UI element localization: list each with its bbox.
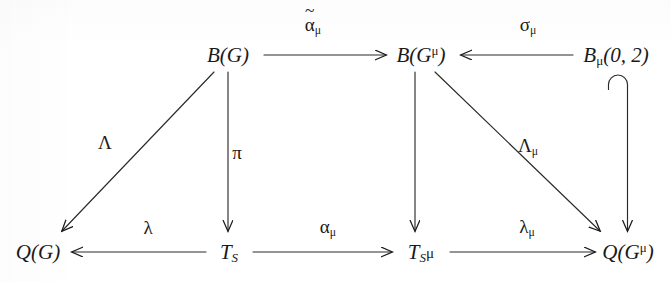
edge-label-pi: π π [232,143,242,162]
node-b-g-mu: B(Gμ) B(Gμ) [397,45,446,66]
edge-label-lambda-mu: λμ λμ [519,217,535,236]
arrow-big-lambda [62,72,214,231]
arrow-hook-inclusion [609,75,628,231]
edge-label-big-lambda: Λ Λ [98,133,112,152]
node-t-s-mu: TSμ TSμ [408,242,434,263]
node-t-s: TS TS [220,242,238,263]
node-q-g: Q(G) Q(G) [16,242,60,263]
commutative-diagram: B(Gmu) --> B(Gmu) (points left) --> Q(G)… [0,0,671,282]
edge-label-alpha-mu: αμ αμ [320,217,336,236]
edge-label-alpha-tilde-mu: α̃μ ~αμ [305,15,321,34]
node-b-g: B(G) B(G) [207,45,249,66]
edge-label-lambda: λ λ [143,218,152,237]
edge-label-big-lambda-mu: Λμ Λμ [518,136,538,155]
node-q-g-mu: Q(Gμ) Q(Gμ) [602,242,653,263]
edge-label-sigma-mu: σμ σμ [520,15,537,34]
node-b-mu-0-2: Bμ(0, 2) Bμ(0, 2) [583,45,648,66]
